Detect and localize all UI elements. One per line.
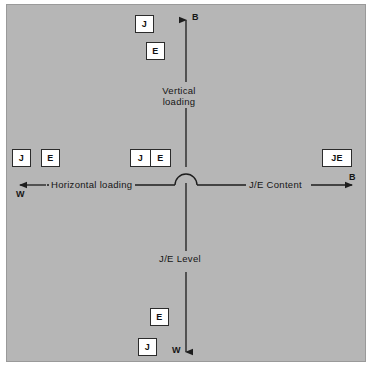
je-level-title: J/E Level xyxy=(150,253,210,264)
je-content-title: J/E Content xyxy=(249,179,302,190)
horizontal-loading-title: Horizontal loading xyxy=(51,179,132,190)
marker-box-left-j: J xyxy=(12,149,31,167)
marker-box-center-je: J E xyxy=(130,149,171,167)
marker-box-bottom-e: E xyxy=(150,308,169,326)
marker-box-bottom-j: J xyxy=(138,338,157,356)
marker-box-center-e-half: E xyxy=(151,150,170,166)
axis-label-left: W xyxy=(16,189,25,199)
marker-box-top-e: E xyxy=(146,42,165,60)
diagram-figure: B W W B Verticalloading J/E Level Horizo… xyxy=(0,0,373,369)
marker-box-top-j: J xyxy=(135,15,154,33)
axis-label-top: B xyxy=(192,12,199,22)
marker-box-right-je: JE xyxy=(322,149,352,167)
vertical-loading-title: Verticalloading xyxy=(149,85,209,107)
axis-label-bottom: W xyxy=(172,345,181,355)
marker-box-left-e: E xyxy=(41,149,60,167)
marker-box-center-j-half: J xyxy=(131,150,151,166)
axis-label-right: B xyxy=(349,172,356,182)
